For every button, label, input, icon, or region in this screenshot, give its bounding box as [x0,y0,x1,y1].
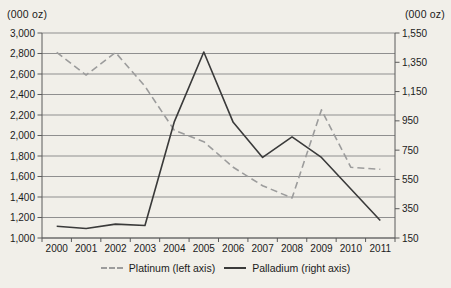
x-axis-tick-label: 2010 [340,243,363,254]
x-axis-tick-label: 2002 [104,243,127,254]
right-axis-tick-label: 350 [402,203,419,214]
left-axis-tick-label: 1,000 [10,233,35,244]
right-axis-tick-label: 1,550 [402,28,427,39]
left-axis-tick-label: 2,800 [10,48,35,59]
x-axis-tick-label: 2009 [310,243,333,254]
palladium-series-line [57,52,381,228]
x-axis-tick-label: 2001 [75,243,98,254]
left-axis-tick-label: 1,200 [10,212,35,223]
left-axis-tick-label: 2,400 [10,89,35,100]
left-axis-tick-label: 2,600 [10,69,35,80]
left-axis-tick-label: 1,600 [10,171,35,182]
x-axis-tick-label: 2004 [163,243,186,254]
right-axis-tick-label: 550 [402,174,419,185]
legend-item-platinum: Platinum (left axis) [101,262,215,274]
left-axis-tick-label: 2,000 [10,130,35,141]
x-axis-tick-label: 2008 [281,243,304,254]
legend-item-palladium: Palladium (right axis) [224,262,350,274]
x-axis-tick-label: 2000 [46,243,69,254]
x-axis-tick-label: 2007 [252,243,275,254]
line-chart-figure: (000 oz) (000 oz) 3,0002,8002,6002,4002,… [0,0,451,288]
right-axis-tick-label: 1,350 [402,57,427,68]
x-axis-tick-label: 2011 [370,243,392,254]
left-axis-tick-label: 1,800 [10,151,35,162]
x-axis-tick-label: 2006 [222,243,245,254]
right-axis-tick-label: 750 [402,145,419,156]
palladium-solid-line-sample [224,267,246,269]
x-axis-tick-label: 2005 [193,243,216,254]
left-axis-tick-label: 2,200 [10,110,35,121]
right-axis-tick-label: 950 [402,115,419,126]
legend-label-platinum: Platinum (left axis) [129,262,215,274]
chart-plot-area: 3,0002,8002,6002,4002,2002,0001,8001,600… [0,0,451,288]
left-axis-tick-label: 3,000 [10,28,35,39]
x-axis-tick-label: 2003 [134,243,157,254]
right-axis-tick-label: 150 [402,233,419,244]
right-axis-tick-label: 1,150 [402,86,427,97]
chart-legend: Platinum (left axis) Palladium (right ax… [0,262,451,274]
legend-label-palladium: Palladium (right axis) [252,262,350,274]
left-axis-tick-label: 1,400 [10,192,35,203]
platinum-dashed-line-sample [101,267,123,269]
